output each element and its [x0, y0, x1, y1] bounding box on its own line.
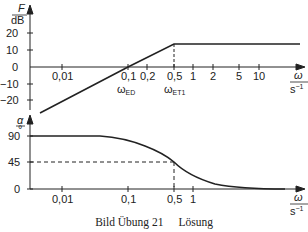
y-axis-arrow-icon [27, 115, 33, 124]
svg-text:10: 10 [253, 70, 265, 82]
y-label-num: F [18, 2, 26, 14]
svg-text:2: 2 [210, 70, 216, 82]
svg-text:0: 0 [12, 61, 18, 73]
y-label-den: dB [11, 14, 24, 26]
phase-plot [27, 115, 305, 192]
svg-text:ω: ω [294, 191, 303, 203]
phase-labels: α ° 90 45 0 0,01 0,1 0,5 1 ω s−1 [8, 114, 308, 217]
svg-text:90: 90 [8, 130, 20, 142]
svg-text:−10: −10 [0, 78, 19, 90]
svg-text:0,2: 0,2 [140, 70, 155, 82]
svg-text:−20: −20 [0, 94, 19, 106]
svg-text:0,1: 0,1 [121, 193, 136, 205]
y-axis-arrow-icon [27, 5, 33, 14]
svg-text:0: 0 [14, 183, 20, 195]
svg-text:5: 5 [236, 70, 242, 82]
svg-text:0,5: 0,5 [167, 193, 182, 205]
svg-text:20: 20 [6, 27, 18, 39]
svg-text:45: 45 [8, 156, 20, 168]
svg-text:0,5: 0,5 [167, 70, 182, 82]
svg-text:0,01: 0,01 [52, 70, 73, 82]
caption-label: Lösung [178, 216, 213, 228]
figure-caption: Bild Übung 21 Lösung [0, 216, 308, 228]
caption-figure: Bild Übung 21 [95, 216, 163, 228]
svg-text:1: 1 [190, 193, 196, 205]
bode-diagram: F dB 20 10 0 −10 −20 0,01 0,1 0,2 0,5 1 … [0, 0, 308, 232]
svg-text:10: 10 [6, 44, 18, 56]
svg-text:0,01: 0,01 [52, 193, 73, 205]
svg-text:0,1: 0,1 [121, 70, 136, 82]
svg-text:s−1: s−1 [290, 83, 304, 95]
svg-text:1: 1 [190, 70, 196, 82]
omega-ed-label: ωED [117, 83, 135, 96]
omega-et1-label: ωET1 [164, 83, 186, 96]
svg-text:ω: ω [294, 69, 303, 81]
magnitude-plot [27, 5, 305, 113]
